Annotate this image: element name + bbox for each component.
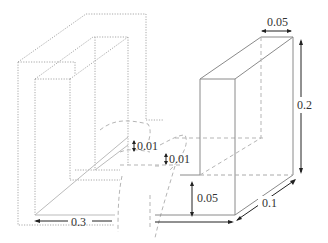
dim-base-height: 0.05	[190, 181, 218, 217]
dim-thickness-right: 0.01	[164, 152, 190, 166]
label-top-width: 0.05	[267, 15, 288, 29]
right-pillar	[155, 37, 293, 215]
label-base-height: 0.05	[197, 191, 218, 205]
label-depth: 0.1	[262, 196, 277, 210]
dim-top-width: 0.05	[261, 15, 292, 33]
label-length: 0.3	[71, 215, 86, 229]
label-thickness-right: 0.01	[169, 152, 190, 166]
left-inner-pillar	[35, 37, 128, 215]
label-thickness-left: 0.01	[137, 139, 158, 153]
dim-thickness-left: 0.01	[132, 139, 158, 153]
left-base-edges	[35, 137, 128, 215]
left-outer-frame	[18, 14, 164, 225]
dim-length: 0.3	[34, 215, 234, 229]
label-height: 0.2	[297, 98, 312, 112]
break-lines	[100, 121, 265, 238]
dim-height: 0.2	[296, 39, 312, 174]
dim-depth: 0.1	[236, 179, 296, 221]
u-channel-diagram: 0.05 0.2 0.1 0.05 0.3 0.01	[0, 0, 328, 243]
